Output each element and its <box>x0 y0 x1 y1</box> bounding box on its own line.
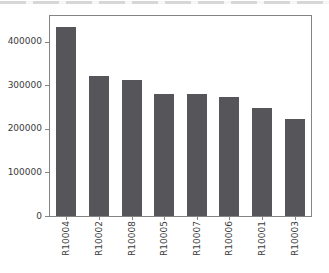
x-tick-label-R10003: R10003 <box>290 221 300 256</box>
x-tick-mark <box>197 217 198 220</box>
y-tick-label-200000: 200000 <box>6 124 42 133</box>
x-tick-mark <box>132 217 133 220</box>
window-edge-strip <box>0 1 329 4</box>
x-tick-label-R10008: R10008 <box>127 221 137 256</box>
y-tick-mark <box>45 172 49 173</box>
screenshot-root: 0100000200000300000400000 R10004R10002R1… <box>0 0 329 273</box>
y-tick-label-300000: 300000 <box>6 81 42 90</box>
x-tick-label-R10005: R10005 <box>159 221 169 256</box>
x-tick-mark <box>164 217 165 220</box>
bar-R10003 <box>285 119 305 216</box>
x-tick-mark <box>295 217 296 220</box>
bar-R10007 <box>187 94 207 216</box>
bar-R10004 <box>56 27 76 216</box>
y-tick-label-400000: 400000 <box>6 37 42 46</box>
x-tick-mark <box>262 217 263 220</box>
y-tick-mark <box>45 216 49 217</box>
x-tick-mark <box>229 217 230 220</box>
y-tick-mark <box>45 85 49 86</box>
bar-R10008 <box>122 80 142 216</box>
x-tick-label-R10002: R10002 <box>94 221 104 256</box>
bar-R10006 <box>219 97 239 216</box>
x-tick-mark <box>99 217 100 220</box>
y-tick-label-100000: 100000 <box>6 168 42 177</box>
bar-R10005 <box>154 94 174 216</box>
y-tick-mark <box>45 129 49 130</box>
x-tick-label-R10006: R10006 <box>224 221 234 256</box>
x-tick-label-R10007: R10007 <box>192 221 202 256</box>
plot-area <box>49 15 312 217</box>
x-tick-mark <box>66 217 67 220</box>
y-tick-mark <box>45 42 49 43</box>
x-tick-label-R10004: R10004 <box>61 221 71 256</box>
bar-R10002 <box>89 76 109 216</box>
y-tick-label-0: 0 <box>6 212 42 221</box>
bar-R10001 <box>252 108 272 216</box>
x-tick-label-R10001: R10001 <box>257 221 267 256</box>
